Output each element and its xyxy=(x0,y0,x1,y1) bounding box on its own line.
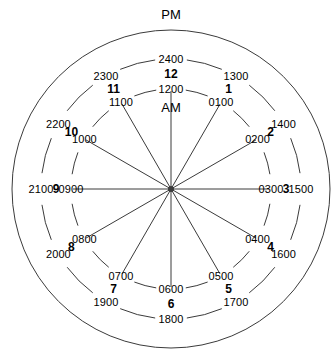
hour-number-8: 8 xyxy=(68,241,75,253)
am-hour-label-0900: 0900 xyxy=(59,184,84,195)
pm-hour-label-1400: 1400 xyxy=(271,119,296,130)
pm-hour-label-1800: 1800 xyxy=(159,314,184,325)
am-hour-label-0300: 0300 xyxy=(259,184,284,195)
24-hour-ring-arc xyxy=(120,60,155,69)
24-hour-ring-arc xyxy=(249,85,275,111)
am-hour-label-1200: 1200 xyxy=(159,84,184,95)
24-hour-ring-arc xyxy=(291,138,300,173)
24-hour-ring-arc xyxy=(42,138,51,173)
period-label-pm: PM xyxy=(161,8,181,21)
am-hour-label-0800: 0800 xyxy=(72,234,97,245)
24-hour-ring-arc xyxy=(249,267,275,293)
clock-spoke xyxy=(171,189,256,238)
clock-spoke xyxy=(86,189,171,238)
hour-number-7: 7 xyxy=(110,283,117,295)
12-hour-ring-arc xyxy=(93,251,109,267)
am-hour-label-0100: 0100 xyxy=(209,97,234,108)
hour-number-10: 10 xyxy=(65,126,78,138)
hour-number-4: 4 xyxy=(267,241,274,253)
pm-hour-label-2100: 2100 xyxy=(29,184,54,195)
12-hour-ring-arc xyxy=(72,204,78,226)
12-hour-ring-arc xyxy=(264,152,270,174)
am-hour-label-0500: 0500 xyxy=(209,270,234,281)
period-label-am: AM xyxy=(161,101,181,114)
24-hour-ring-arc xyxy=(291,205,300,240)
hour-number-1: 1 xyxy=(225,83,232,95)
24-hour-ring-arc xyxy=(187,309,222,318)
hour-number-5: 5 xyxy=(225,283,232,295)
hour-number-2: 2 xyxy=(267,126,274,138)
24-hour-ring-arc xyxy=(42,205,51,240)
clock-spoke xyxy=(171,104,220,189)
24-hour-ring-arc xyxy=(120,309,155,318)
pm-hour-label-2400: 2400 xyxy=(159,54,184,65)
pm-hour-label-1600: 1600 xyxy=(271,249,296,260)
12-hour-ring-arc xyxy=(134,90,156,96)
clock-dial-figure: PM AM 2400120012130001001140002002150003… xyxy=(0,0,333,360)
pm-hour-label-1500: 1500 xyxy=(289,184,314,195)
clock-spoke xyxy=(171,140,256,189)
clock-spoke xyxy=(122,104,171,189)
12-hour-ring-arc xyxy=(134,282,156,288)
am-hour-label-1100: 1100 xyxy=(109,97,133,108)
24-hour-ring-arc xyxy=(67,85,93,111)
clock-spoke xyxy=(122,189,171,274)
hour-number-9: 9 xyxy=(53,183,60,195)
clock-spoke xyxy=(171,189,220,274)
hour-number-3: 3 xyxy=(283,183,290,195)
24-hour-ring-arc xyxy=(187,60,222,69)
center-hub xyxy=(168,186,174,192)
12-hour-ring-arc xyxy=(186,282,208,288)
pm-hour-label-1700: 1700 xyxy=(224,296,249,307)
clock-spoke xyxy=(86,140,171,189)
pm-hour-label-2300: 2300 xyxy=(94,71,119,82)
pm-hour-label-1300: 1300 xyxy=(224,71,249,82)
12-hour-ring-arc xyxy=(186,90,208,96)
12-hour-ring-arc xyxy=(93,111,109,127)
hour-number-6: 6 xyxy=(168,298,175,310)
hour-number-12: 12 xyxy=(164,68,177,80)
am-hour-label-0700: 0700 xyxy=(109,270,134,281)
12-hour-ring-arc xyxy=(233,251,249,267)
12-hour-ring-arc xyxy=(233,111,249,127)
pm-hour-label-1900: 1900 xyxy=(94,296,119,307)
hour-number-11: 11 xyxy=(107,83,120,95)
24-hour-ring-arc xyxy=(67,267,93,293)
12-hour-ring-arc xyxy=(264,204,270,226)
12-hour-ring-arc xyxy=(72,152,78,174)
am-hour-label-0600: 0600 xyxy=(159,284,184,295)
